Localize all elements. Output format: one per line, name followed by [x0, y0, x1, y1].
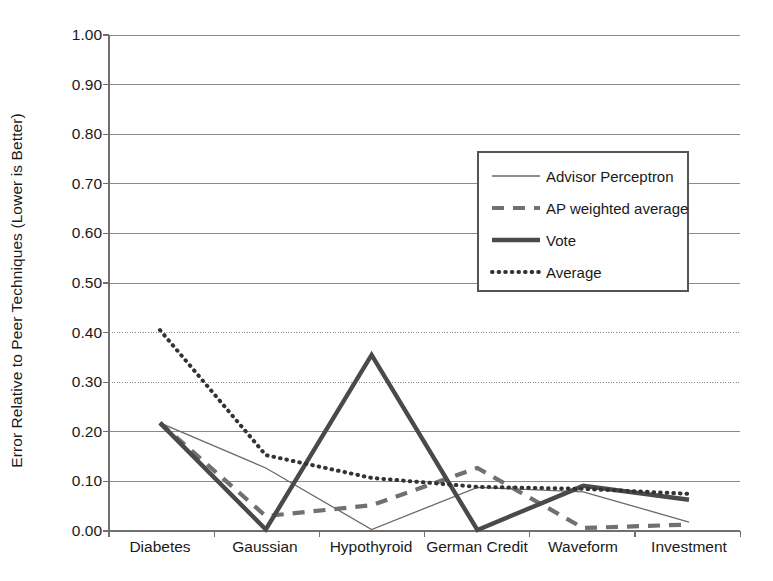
series-line-vote	[160, 355, 689, 530]
chart-container: Error Relative to Peer Techniques (Lower…	[0, 0, 773, 581]
legend-label-vote[interactable]: Vote	[546, 232, 576, 249]
series-line-average	[160, 330, 689, 494]
data-series-group	[160, 330, 689, 530]
plot-area: Advisor PerceptronAP weighted averageVot…	[0, 0, 773, 581]
x-axis-ticks	[109, 531, 740, 537]
legend[interactable]: Advisor PerceptronAP weighted averageVot…	[478, 152, 688, 291]
legend-label-average[interactable]: Average	[546, 264, 602, 281]
legend-label-advisor-perceptron[interactable]: Advisor Perceptron	[546, 168, 674, 185]
legend-label-ap-weighted-average[interactable]: AP weighted average	[546, 200, 688, 217]
